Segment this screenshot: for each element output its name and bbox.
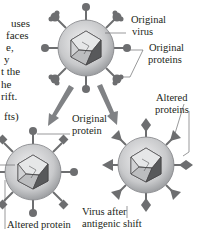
original-virus [41, 3, 131, 93]
text-fragment: fts) [4, 110, 19, 123]
text-fragment: t the [1, 65, 20, 78]
arrow-left [48, 85, 74, 126]
label-altered-proteins-2: proteins [155, 104, 189, 116]
text-fragment: rift. [1, 90, 17, 103]
virus-after-shift [102, 118, 193, 212]
label-altered-protein: Altered protein [7, 219, 71, 231]
label-original-virus-1: Original [131, 14, 166, 26]
label-original-proteins-1: Original [149, 42, 184, 54]
label-original-protein-1: Original [72, 113, 107, 125]
label-original-protein-2: protein [72, 125, 102, 137]
label-original-proteins-2: proteins [148, 54, 182, 66]
label-altered-proteins-1: Altered [156, 92, 188, 104]
virus-mixed [0, 127, 78, 217]
label-virus-after-2: antigenic shift [82, 218, 142, 230]
leader-altered-proteins [183, 111, 189, 156]
label-original-virus-2: virus [132, 26, 153, 38]
leader-original-proteins [122, 50, 143, 77]
label-virus-after-1: Virus after [82, 206, 127, 218]
